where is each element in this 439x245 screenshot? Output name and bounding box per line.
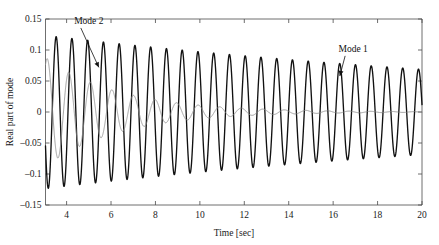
y-axis-tick-labels: –0.15–0.1–0.0500.050.10.15 (19, 14, 42, 210)
annotation-label: Mode 1 (338, 44, 368, 54)
x-tick-label: 16 (328, 210, 338, 220)
chart-figure: 468101214161820 –0.15–0.1–0.0500.050.10.… (0, 0, 439, 245)
x-axis-title: Time [sec] (214, 228, 255, 238)
x-tick-label: 8 (153, 210, 158, 220)
y-axis-title: Real part of mode (5, 78, 15, 146)
y-tick-label: 0.05 (25, 76, 42, 86)
y-tick-label: –0.05 (19, 138, 42, 148)
x-tick-label: 4 (64, 210, 69, 220)
x-tick-label: 18 (373, 210, 383, 220)
x-tick-label: 12 (240, 210, 250, 220)
y-tick-label: –0.15 (19, 200, 42, 210)
annotation-label: Mode 2 (74, 16, 104, 26)
data-series-group (46, 37, 423, 189)
x-tick-label: 6 (109, 210, 114, 220)
y-tick-label: 0.1 (30, 45, 42, 55)
x-tick-label: 10 (195, 210, 205, 220)
y-tick-label: –0.1 (24, 169, 42, 179)
x-tick-label: 20 (417, 210, 427, 220)
x-tick-label: 14 (284, 210, 294, 220)
chart-canvas: 468101214161820 –0.15–0.1–0.0500.050.10.… (0, 0, 439, 245)
series-line-mode-1 (46, 37, 423, 189)
y-tick-label: 0 (37, 107, 42, 117)
x-axis-tick-labels: 468101214161820 (64, 210, 427, 220)
y-tick-label: 0.15 (25, 14, 42, 24)
